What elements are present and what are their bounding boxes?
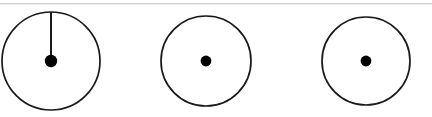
- figure-canvas: [0, 0, 432, 117]
- scan-line-artifact-secondary: [0, 4, 432, 5]
- center-dot-2: [201, 56, 212, 67]
- circle-group-2: [161, 16, 251, 106]
- center-dot-3: [361, 56, 372, 67]
- circle-group-3: [322, 17, 410, 105]
- circle-group-1: [2, 12, 100, 110]
- circles-diagram: [0, 0, 432, 117]
- center-dot-1: [45, 55, 57, 67]
